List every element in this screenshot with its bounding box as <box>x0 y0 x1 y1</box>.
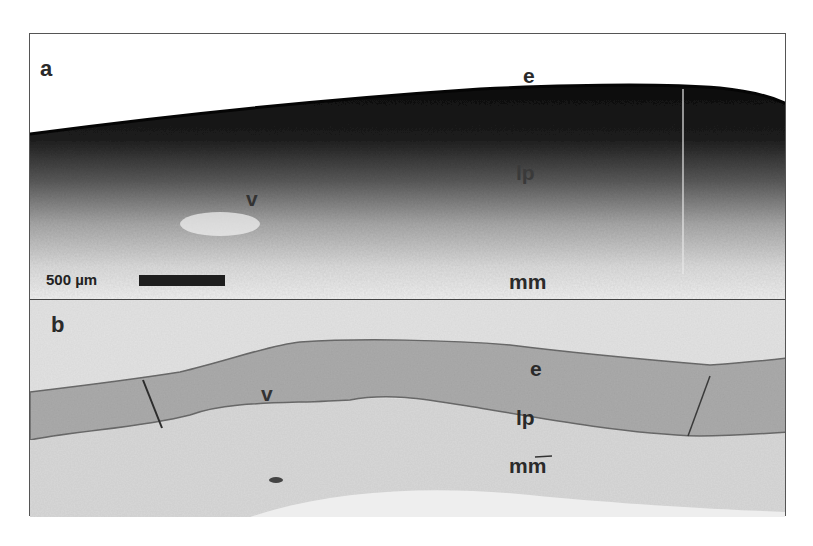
figure-frame: a e lp v mm 500 µm <box>29 33 786 516</box>
oct-image-graphic <box>30 34 785 299</box>
label-epithelium-b: e <box>530 358 542 379</box>
scale-bar-label: 500 µm <box>46 271 97 288</box>
label-muscularis-mucosae-a: mm <box>509 271 546 292</box>
label-muscularis-mucosae-b: mm <box>509 455 546 476</box>
label-lamina-propria-b: lp <box>516 407 535 428</box>
scale-bar <box>139 275 225 286</box>
label-epithelium-a: e <box>523 65 535 86</box>
label-vessel-a: v <box>246 188 258 209</box>
panel-letter-b: b <box>51 314 64 336</box>
panel-letter-a: a <box>40 58 52 80</box>
histology-image-graphic <box>30 300 785 517</box>
label-lamina-propria-a: lp <box>516 162 535 183</box>
panel-b-histology-image: b e lp v mm <box>30 299 785 517</box>
label-vessel-b: v <box>261 383 273 404</box>
panel-a-oct-image: a e lp v mm 500 µm <box>30 34 785 299</box>
